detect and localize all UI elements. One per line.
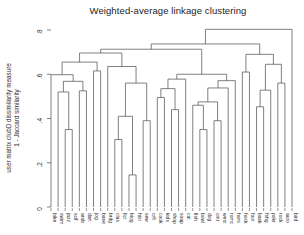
leaf-label: swim	[59, 213, 65, 224]
leaf-label: fish	[193, 213, 199, 221]
leaf-label: cat	[186, 213, 192, 220]
leaf-label: bask	[257, 213, 263, 224]
leaf-label: scif	[73, 213, 79, 221]
leaf-label: kids	[165, 213, 171, 222]
leaf-label: romc	[229, 213, 235, 225]
leaf-label: arob	[80, 213, 86, 223]
leaf-label: brdg	[108, 213, 114, 223]
y-tick-label: .4	[36, 117, 43, 123]
leaf-label: bowl	[200, 213, 206, 223]
leaf-label: sew	[144, 213, 150, 222]
leaf-label: fshg	[264, 213, 270, 223]
leaf-label: foot	[250, 213, 256, 222]
leaf-label: hock	[243, 213, 249, 224]
dendrogram-canvas: 0.2.4.6.8bikeswimjazzscifarobdartjogbase…	[0, 0, 304, 235]
leaf-label: base	[101, 213, 107, 224]
leaf-label: shop	[172, 213, 178, 224]
y-tick-label: 0	[36, 207, 43, 211]
leaf-label: auto	[285, 213, 291, 223]
leaf-label: west	[222, 213, 228, 224]
leaf-label: pokr	[271, 213, 277, 223]
leaf-label: jazz	[66, 212, 72, 222]
leaf-label: hors	[236, 213, 242, 223]
leaf-label: bird	[293, 213, 299, 222]
leaf-label: cntr	[215, 213, 221, 222]
leaf-label: dart	[87, 213, 93, 222]
leaf-label: dog	[207, 213, 213, 222]
leaf-label: jog	[94, 212, 100, 220]
y-tick-label: .8	[36, 29, 43, 35]
leaf-label: rock	[278, 213, 284, 223]
leaf-label: soap	[179, 213, 185, 224]
leaf-label: hist	[137, 213, 143, 221]
leaf-label: cook	[158, 213, 164, 224]
leaf-label: biog	[129, 213, 135, 223]
leaf-label: clas	[115, 213, 121, 222]
y-tick-label: .6	[36, 73, 43, 79]
leaf-label: fict	[122, 213, 128, 220]
leaf-label: crft	[151, 213, 157, 221]
stata-dendrogram-figure: Weighted-average linkage clustering user…	[0, 0, 304, 235]
y-tick-label: .2	[36, 162, 43, 168]
leaf-label: bike	[52, 213, 58, 222]
